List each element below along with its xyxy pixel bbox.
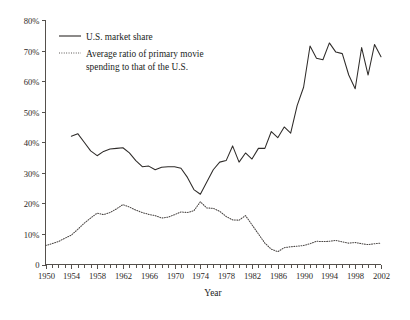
y-tick-label-40: 40%: [24, 138, 40, 148]
x-tick-label-1974: 1974: [192, 271, 210, 281]
x-tick-label-1970: 1970: [167, 271, 184, 281]
x-tick-label-1978: 1978: [218, 271, 235, 281]
legend: U.S. market share Average ratio of prima…: [59, 32, 204, 72]
y-tick-label-70: 70%: [24, 47, 40, 57]
x-axis-title: Year: [204, 288, 222, 298]
y-tick-label-50: 50%: [24, 108, 40, 118]
y-tick-label-0: 0: [35, 260, 39, 270]
y-axis-ticks: [42, 21, 46, 266]
x-tick-label-1966: 1966: [141, 271, 159, 281]
legend-label-average-ratio-line1: Average ratio of primary movie: [86, 49, 204, 59]
y-tick-label-20: 20%: [24, 199, 40, 209]
y-axis-tick-labels: 010%20%30%40%50%60%70%80%: [24, 16, 40, 270]
x-tick-label-1958: 1958: [89, 271, 106, 281]
x-tick-label-1986: 1986: [270, 271, 288, 281]
chart-container: 010%20%30%40%50%60%70%80% 19501954195819…: [0, 0, 410, 320]
y-tick-label-10: 10%: [24, 230, 40, 240]
y-tick-label-60: 60%: [24, 77, 40, 87]
x-tick-label-1982: 1982: [244, 271, 261, 281]
x-tick-label-1990: 1990: [296, 271, 313, 281]
plot-area: [46, 43, 382, 252]
x-tick-label-1998: 1998: [347, 271, 364, 281]
x-tick-label-1962: 1962: [115, 271, 132, 281]
x-tick-label-2002: 2002: [373, 271, 390, 281]
x-axis-tick-labels: 1950195419581962196619701974197819821986…: [38, 271, 390, 281]
x-tick-label-1950: 1950: [38, 271, 55, 281]
line-chart: 010%20%30%40%50%60%70%80% 19501954195819…: [0, 0, 410, 320]
legend-label-us-market-share: U.S. market share: [86, 32, 153, 42]
x-tick-label-1954: 1954: [63, 271, 81, 281]
y-axis-group: 010%20%30%40%50%60%70%80%: [24, 16, 46, 270]
series-line-average-ratio: [46, 202, 382, 252]
y-tick-label-30: 30%: [24, 169, 40, 179]
x-tick-label-1994: 1994: [321, 271, 339, 281]
x-axis-group: 1950195419581962196619701974197819821986…: [38, 265, 390, 281]
y-tick-label-80: 80%: [24, 16, 40, 26]
legend-label-average-ratio-line2: spending to that of the U.S.: [86, 62, 188, 72]
